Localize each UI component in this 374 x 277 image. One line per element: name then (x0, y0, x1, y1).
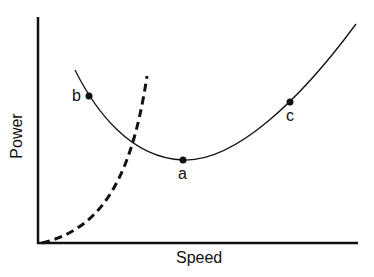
point-b (86, 93, 93, 100)
point-c (287, 99, 294, 106)
chart-canvas (0, 0, 374, 277)
label-c: c (286, 108, 294, 124)
y-axis-label: Power (9, 113, 25, 158)
point-a (180, 157, 187, 164)
label-b: b (72, 88, 81, 104)
solid-curve (75, 24, 356, 160)
label-a: a (178, 166, 187, 182)
x-axis-label: Speed (176, 250, 222, 266)
dashed-curve (42, 76, 147, 243)
